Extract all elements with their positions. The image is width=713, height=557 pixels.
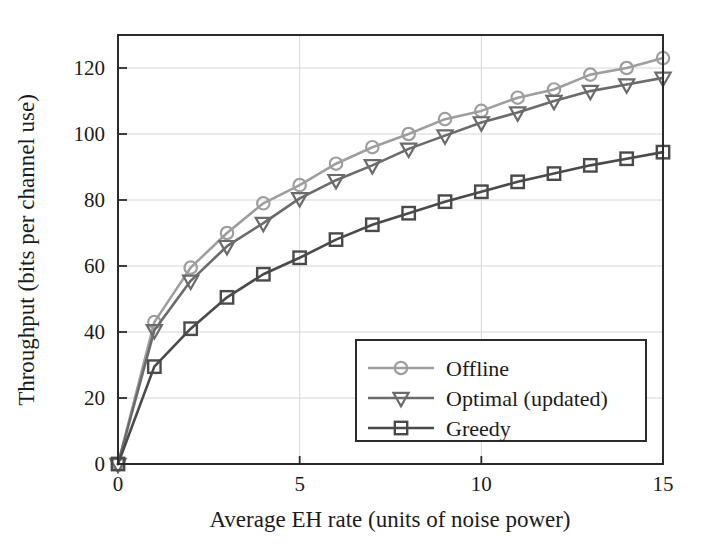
circle-marker [548,83,560,95]
chart-figure: 051015 020406080100120 Average EH rate (… [0,0,713,557]
circle-marker [184,261,196,273]
marker-circle [257,197,269,209]
y-tick-label-60: 60 [84,254,105,278]
circle-marker [402,128,414,140]
y-tick-label-80: 80 [84,188,105,212]
marker-circle [620,62,632,74]
circle-marker [221,227,233,239]
marker-circle [475,105,487,117]
circle-marker [293,179,305,191]
x-tick-label-5: 5 [294,472,305,496]
circle-marker [511,92,523,104]
x-axis-title: Average EH rate (units of noise power) [209,507,570,532]
y-tick-label-0: 0 [95,452,106,476]
y-tick-label-20: 20 [84,386,105,410]
legend-label: Greedy [446,416,511,441]
circle-marker [620,62,632,74]
marker-circle [548,83,560,95]
marker-circle [184,261,196,273]
throughput-line-chart: 051015 020406080100120 Average EH rate (… [0,0,713,557]
marker-circle [395,362,407,374]
x-tick-label-0: 0 [113,472,124,496]
marker-circle [293,179,305,191]
marker-circle [402,128,414,140]
circle-marker [366,141,378,153]
legend-label: Optimal (updated) [446,386,608,411]
legend-label: Offline [446,356,509,381]
marker-circle [511,92,523,104]
x-tick-label-10: 10 [471,472,492,496]
chart-background [0,0,713,557]
circle-marker [395,362,407,374]
marker-circle [584,68,596,80]
y-tick-label-100: 100 [74,122,106,146]
circle-marker [475,105,487,117]
circle-marker [330,158,342,170]
x-tick-label-15: 15 [653,472,674,496]
circle-marker [584,68,596,80]
y-axis-title: Throughput (bits per channel use) [14,94,39,406]
marker-circle [439,113,451,125]
marker-circle [366,141,378,153]
chart-legend[interactable]: OfflineOptimal (updated)Greedy [356,340,646,441]
circle-marker [257,197,269,209]
circle-marker [439,113,451,125]
marker-circle [221,227,233,239]
y-tick-label-120: 120 [74,56,106,80]
y-tick-label-40: 40 [84,320,105,344]
marker-circle [330,158,342,170]
